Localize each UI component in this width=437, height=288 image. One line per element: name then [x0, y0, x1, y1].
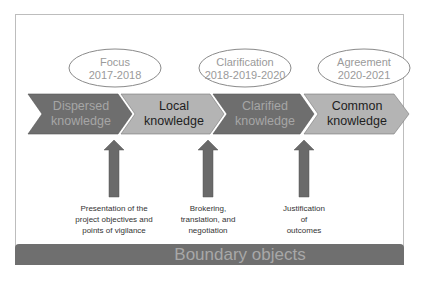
up-arrow-icon — [198, 140, 218, 197]
stage-label-local: Local knowledge — [133, 99, 215, 129]
caption-line: negotiation — [168, 226, 248, 237]
stage-label-dispersed: Dispersed knowledge — [40, 99, 122, 129]
caption-line: translation, and — [168, 215, 248, 226]
boundary-objects-label: Boundary objects — [150, 245, 330, 265]
stage-line: Clarified — [224, 99, 306, 114]
phase-label-clarification: Clarification 2018-2019-2020 — [200, 56, 290, 82]
caption-line: Presentation of the — [64, 204, 164, 215]
up-arrow-icon — [294, 140, 314, 197]
action-caption-justification: Justification of outcomes — [269, 204, 339, 236]
stage-line: knowledge — [224, 114, 306, 129]
phase-years: 2017-2018 — [70, 69, 160, 82]
phase-label-agreement: Agreement 2020-2021 — [319, 56, 409, 82]
phase-label-focus: Focus 2017-2018 — [70, 56, 160, 82]
phase-name: Focus — [70, 56, 160, 69]
phase-name: Agreement — [319, 56, 409, 69]
caption-line: project objectives and — [64, 215, 164, 226]
caption-line: of — [269, 215, 339, 226]
caption-line: outcomes — [269, 226, 339, 237]
caption-line: Brokering, — [168, 204, 248, 215]
stage-line: knowledge — [133, 114, 215, 129]
phase-name: Clarification — [200, 56, 290, 69]
stage-line: Dispersed — [40, 99, 122, 114]
caption-line: Justification — [269, 204, 339, 215]
phase-years: 2018-2019-2020 — [200, 69, 290, 82]
stage-line: Local — [133, 99, 215, 114]
stage-line: knowledge — [40, 114, 122, 129]
action-caption-presentation: Presentation of the project objectives a… — [64, 204, 164, 236]
caption-line: points of vigilance — [64, 226, 164, 237]
stage-line: knowledge — [316, 114, 398, 129]
action-caption-brokering: Brokering, translation, and negotiation — [168, 204, 248, 236]
stage-line: Common — [316, 99, 398, 114]
phase-years: 2020-2021 — [319, 69, 409, 82]
stage-label-clarified: Clarified knowledge — [224, 99, 306, 129]
stage-label-common: Common knowledge — [316, 99, 398, 129]
up-arrow-icon — [104, 140, 124, 197]
